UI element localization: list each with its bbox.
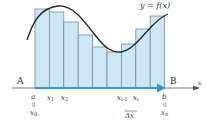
- xn-label: xn: [161, 110, 168, 117]
- bar-2: [49, 12, 63, 88]
- riemann-bars: [35, 9, 165, 88]
- x2-subscript: 2: [65, 96, 68, 102]
- xi-label: xi: [133, 95, 139, 102]
- bar-9: [150, 16, 164, 88]
- bar-3: [64, 22, 78, 88]
- curve-label: y = f(x): [140, 2, 170, 10]
- xi-subscript: i: [137, 96, 139, 102]
- riemann-sum-diagram: [0, 0, 206, 123]
- bar-6: [107, 52, 121, 88]
- x0-subscript: 0: [34, 111, 37, 117]
- x1-subscript: 1: [51, 96, 54, 102]
- bar-7: [121, 44, 135, 88]
- xi-minus-1-label: xi-1: [117, 95, 127, 102]
- lower-equals-sign: ||: [32, 102, 35, 107]
- bar-1: [35, 9, 49, 88]
- bar-4: [78, 35, 92, 88]
- upper-equals-sign: ||: [163, 102, 166, 107]
- x1-label: x1: [47, 95, 54, 102]
- delta-x-label: Δx: [125, 113, 134, 120]
- x-axis-label: x: [198, 80, 201, 86]
- xim1-subscript: i-1: [121, 96, 127, 102]
- x0-label: x0: [30, 110, 37, 117]
- point-b-label: B: [170, 77, 177, 86]
- lower-bound-label: a: [31, 94, 35, 101]
- x2-label: x2: [61, 95, 68, 102]
- upper-bound-label: b: [162, 94, 166, 101]
- x-axis-arrowhead-icon: [193, 86, 200, 91]
- xn-subscript: n: [165, 111, 168, 117]
- bar-8: [136, 29, 150, 88]
- point-a-label: A: [17, 77, 24, 86]
- bar-5: [93, 47, 107, 88]
